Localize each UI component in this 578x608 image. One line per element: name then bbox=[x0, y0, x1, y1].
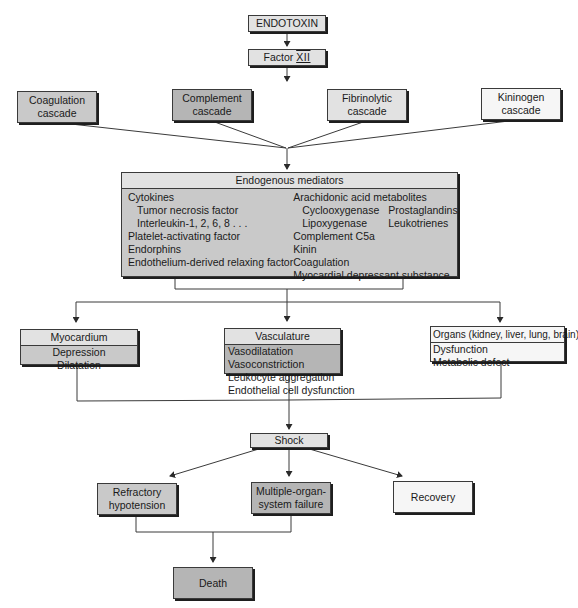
recovery-box: Recovery bbox=[393, 481, 473, 513]
vasculature-title: Vasculature bbox=[225, 329, 340, 345]
mediator-mds: Myocardial depressant substance bbox=[293, 269, 457, 282]
complement-line1: Complement bbox=[182, 92, 242, 105]
myocardium-box: Myocardium Depression Dilatation bbox=[20, 329, 138, 365]
shock-label: Shock bbox=[274, 434, 303, 447]
mediator-lipoxygenase: Lipoxygenase bbox=[302, 217, 388, 230]
refractory-line1: Refractory bbox=[109, 486, 166, 499]
fibrinolytic-line1: Fibrinolytic bbox=[342, 92, 392, 105]
endogenous-mediators-box: Endogenous mediators Cytokines Tumor nec… bbox=[121, 172, 458, 277]
kininogen-cascade-box: Kininogen cascade bbox=[481, 88, 561, 120]
mediator-prostaglandins: Prostaglandins bbox=[388, 204, 457, 217]
mediator-c5a: Complement C5a bbox=[293, 230, 457, 243]
myocardium-title: Myocardium bbox=[21, 330, 137, 346]
organs-metabolic: Metabolic defect bbox=[433, 356, 562, 369]
refractory-line2: hypotension bbox=[109, 499, 166, 512]
refractory-hypotension-box: Refractory hypotension bbox=[97, 483, 177, 515]
mediator-paf: Platelet-activating factor bbox=[128, 230, 293, 243]
mediator-kinin: Kinin bbox=[293, 243, 457, 256]
organs-box: Organs (kidney, liver, lung, brain) Dysf… bbox=[430, 326, 565, 362]
fibrinolytic-line2: cascade bbox=[342, 105, 392, 118]
factor-prefix: Factor bbox=[263, 51, 296, 63]
vasculature-leukocyte: Leukocyte aggregation bbox=[228, 371, 337, 384]
mediator-coagulation: Coagulation bbox=[293, 256, 457, 269]
mediator-tnf: Tumor necrosis factor bbox=[128, 204, 293, 217]
vasculature-box: Vasculature Vasodilatation Vasoconstrict… bbox=[224, 328, 341, 374]
mediator-edrf: Endothelium-derived relaxing factor bbox=[128, 256, 293, 269]
mediators-left-column: Cytokines Tumor necrosis factor Interleu… bbox=[128, 191, 293, 282]
mediators-title: Endogenous mediators bbox=[122, 173, 457, 189]
mediator-cyclooxygenase: Cyclooxygenase bbox=[302, 204, 388, 217]
organs-dysfunction: Dysfunction bbox=[433, 343, 562, 356]
endotoxin-box: ENDOTOXIN bbox=[248, 15, 326, 32]
mosf-line1: Multiple-organ- bbox=[256, 485, 326, 498]
recovery-label: Recovery bbox=[411, 491, 455, 504]
complement-cascade-box: Complement cascade bbox=[172, 89, 252, 121]
kininogen-line2: cascade bbox=[498, 104, 545, 117]
fibrinolytic-cascade-box: Fibrinolytic cascade bbox=[327, 89, 407, 121]
death-label: Death bbox=[199, 577, 227, 590]
mediator-arachidonic: Arachidonic acid metabolites bbox=[293, 191, 457, 204]
mediators-right-column: Arachidonic acid metabolites Cyclooxygen… bbox=[293, 191, 457, 282]
coagulation-cascade-box: Coagulation cascade bbox=[17, 91, 97, 123]
kininogen-line1: Kininogen bbox=[498, 91, 545, 104]
vasculature-vasoconstriction: Vasoconstriction bbox=[228, 358, 337, 371]
endotoxin-shock-flowchart: ENDOTOXIN Factor XII Coagulation cascade… bbox=[0, 0, 578, 608]
vasculature-endothelial: Endothelial cell dysfunction bbox=[228, 384, 337, 397]
factor-xii-label: Factor XII bbox=[263, 51, 310, 64]
mediator-interleukins: Interleukin-1, 2, 6, 8 . . . bbox=[128, 217, 293, 230]
coagulation-line2: cascade bbox=[29, 107, 85, 120]
mediator-endorphins: Endorphins bbox=[128, 243, 293, 256]
factor-xii-box: Factor XII bbox=[248, 49, 326, 66]
mediator-cytokines: Cytokines bbox=[128, 191, 293, 204]
mediator-leukotrienes: Leukotrienes bbox=[388, 217, 448, 230]
myocardium-depression: Depression bbox=[21, 346, 137, 359]
endotoxin-label: ENDOTOXIN bbox=[256, 17, 318, 30]
coagulation-line1: Coagulation bbox=[29, 94, 85, 107]
factor-roman-numeral: XII bbox=[296, 51, 310, 63]
mosf-line2: system failure bbox=[256, 498, 326, 511]
death-box: Death bbox=[173, 567, 253, 599]
organs-title: Organs (kidney, liver, lung, brain) bbox=[431, 327, 564, 343]
vasculature-vasodilatation: Vasodilatation bbox=[228, 345, 337, 358]
myocardium-dilatation: Dilatation bbox=[21, 359, 137, 372]
shock-box: Shock bbox=[250, 433, 328, 448]
complement-line2: cascade bbox=[182, 105, 242, 118]
mosf-box: Multiple-organ- system failure bbox=[251, 482, 331, 514]
